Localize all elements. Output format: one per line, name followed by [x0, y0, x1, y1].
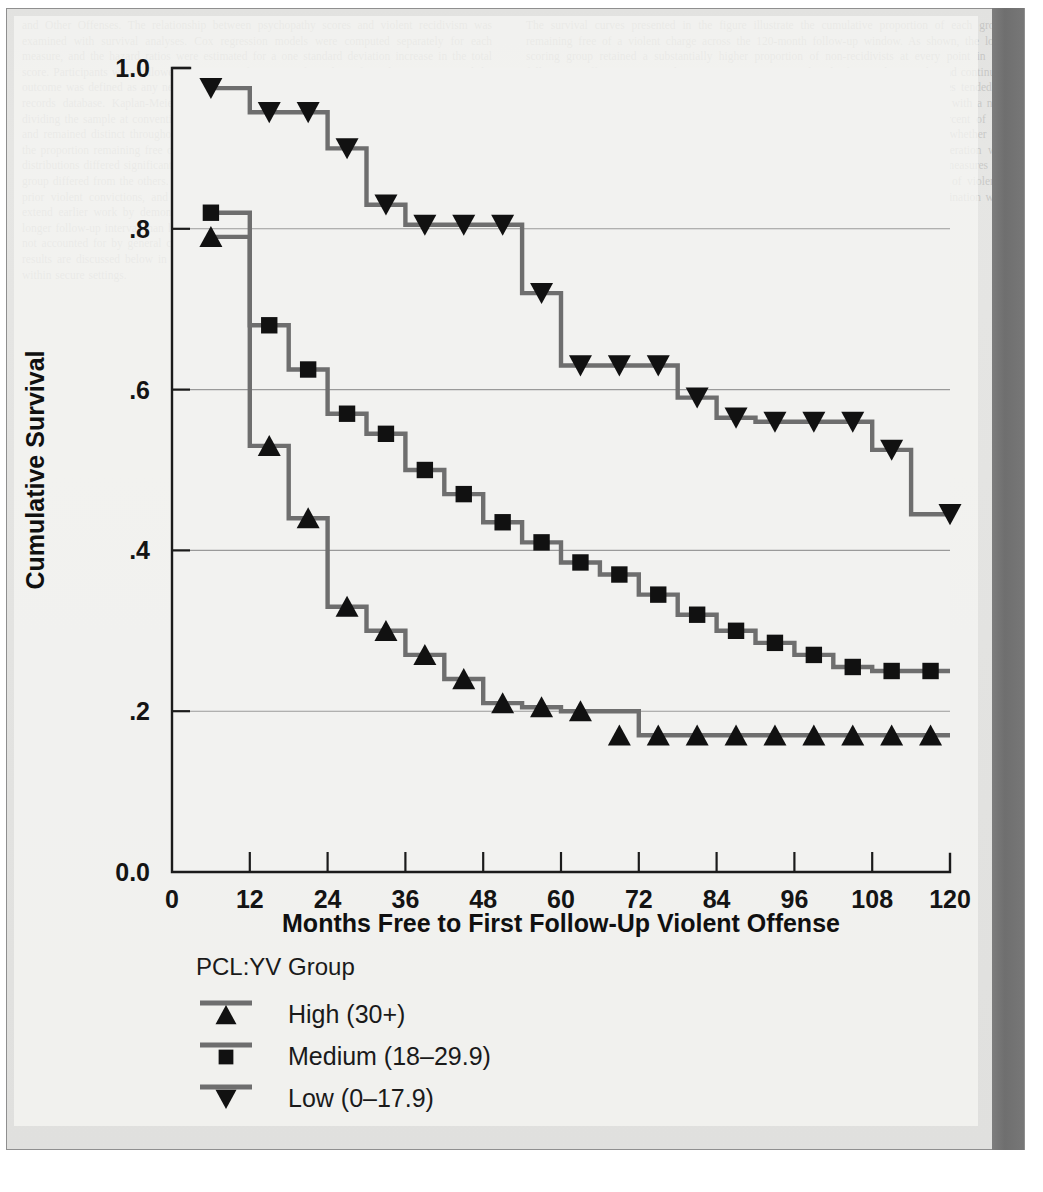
data-point-marker — [922, 663, 938, 679]
data-point-marker — [806, 647, 822, 663]
data-point-marker — [767, 635, 783, 651]
legend-entry-label: Medium (18–29.9) — [288, 1042, 491, 1070]
x-axis-tick-label: 0 — [165, 885, 179, 913]
data-point-marker — [728, 623, 744, 639]
legend-entry-label: High (30+) — [288, 1000, 405, 1028]
x-axis-tick-label: 120 — [929, 885, 971, 913]
survival-chart-svg: 0.0.2.4.6.81.0 01224364860728496108120 M… — [0, 0, 1043, 1192]
legend-entry[interactable]: Low (0–17.9) — [200, 1084, 434, 1112]
legend-entry[interactable]: Medium (18–29.9) — [200, 1042, 491, 1070]
legend-marker-triangle-up — [216, 1005, 237, 1024]
x-axis-tick-label: 12 — [236, 885, 264, 913]
data-point-marker — [689, 607, 705, 623]
data-point-marker — [845, 659, 861, 675]
data-point-marker — [261, 317, 277, 333]
data-point-marker — [300, 361, 316, 377]
y-axis-title: Cumulative Survival — [21, 351, 49, 590]
y-axis-tick-labels: 0.0.2.4.6.81.0 — [115, 54, 150, 886]
survival-chart: 0.0.2.4.6.81.0 01224364860728496108120 M… — [0, 0, 1043, 1192]
data-point-marker — [883, 663, 899, 679]
x-axis-title: Months Free to First Follow-Up Violent O… — [282, 909, 840, 937]
y-axis-tick-label: .4 — [129, 536, 150, 564]
legend-marker-triangle-down — [216, 1090, 237, 1109]
data-point-marker — [572, 554, 588, 570]
x-axis-tick-label: 108 — [851, 885, 893, 913]
y-axis-tick-label: .2 — [129, 697, 150, 725]
data-point-marker — [339, 406, 355, 422]
legend-entry-label: Low (0–17.9) — [288, 1084, 434, 1112]
legend-title: PCL:YV Group — [196, 953, 355, 980]
data-point-marker — [533, 534, 549, 550]
data-point-marker — [417, 462, 433, 478]
y-axis-tick-label: .6 — [129, 376, 150, 404]
y-axis-tick-label: 1.0 — [115, 54, 150, 82]
y-axis-tick-label: 0.0 — [115, 858, 150, 886]
chart-legend: PCL:YV Group High (30+)Medium (18–29.9)L… — [196, 953, 491, 1112]
data-point-marker — [494, 514, 510, 530]
legend-entries-group: High (30+)Medium (18–29.9)Low (0–17.9) — [200, 1000, 491, 1112]
legend-marker-square — [219, 1050, 234, 1065]
y-axis-tick-label: .8 — [129, 215, 150, 243]
page-root: and Other Offenses. The relationship bet… — [0, 0, 1043, 1192]
data-point-marker — [611, 566, 627, 582]
legend-entry[interactable]: High (30+) — [200, 1000, 405, 1028]
data-point-marker — [378, 426, 394, 442]
data-point-marker — [456, 486, 472, 502]
data-point-marker — [650, 586, 666, 602]
data-point-marker — [203, 205, 219, 221]
